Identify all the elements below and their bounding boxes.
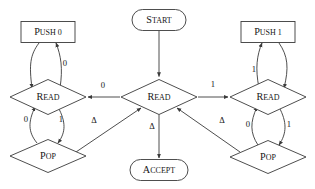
edge-pop-right-to-read-mid — [177, 108, 240, 152]
edge-label-read-left-to-push0: 0 — [63, 58, 67, 68]
edge-read-right-to-push1 — [257, 43, 262, 88]
edge-label-read-left-to-pop-left: 1 — [59, 114, 63, 124]
edge-read-left-to-push0 — [56, 43, 61, 88]
edge-label-read-mid-to-accept: Δ — [149, 121, 155, 131]
node-read-mid[interactable]: READ — [121, 80, 197, 115]
edge-pop-right-to-read-right — [252, 107, 258, 145]
edge-label-read-right-to-push1: 1 — [252, 64, 256, 74]
node-push1[interactable]: PUSH 1 — [241, 22, 295, 43]
node-push0-label: PUSH 0 — [34, 26, 62, 37]
edge-label-pop-left-to-read-mid: Δ — [91, 115, 97, 125]
edge-pop-left-to-read-left — [30, 107, 37, 143]
edge-pop-left-to-read-mid — [76, 108, 141, 152]
node-read-right[interactable]: READ — [230, 80, 306, 115]
edge-label-read-right-to-pop-right: 1 — [287, 119, 291, 129]
node-push1-label: PUSH 1 — [254, 26, 282, 37]
node-start[interactable]: START — [132, 10, 186, 31]
node-pop-left-label: POP — [40, 150, 56, 161]
edge-label-pop-right-to-read-mid: Δ — [219, 115, 225, 125]
edge-label-read-mid-to-read-left: 0 — [101, 80, 105, 90]
node-start-label: START — [146, 14, 172, 25]
state-diagram: 0 1 0 0 1 1 0 1 Δ Δ Δ — [0, 0, 315, 189]
edge-push1-to-read-right — [279, 43, 287, 88]
node-accept[interactable]: ACCEPT — [130, 160, 188, 181]
edge-label-read-mid-to-read-right: 1 — [211, 79, 215, 89]
node-read-mid-label: READ — [147, 91, 170, 102]
node-accept-label: ACCEPT — [143, 164, 175, 175]
edge-read-left-to-pop-left — [58, 107, 64, 143]
node-push0[interactable]: PUSH 0 — [21, 22, 75, 43]
edge-label-pop-left-to-read-left: 0 — [24, 114, 28, 124]
node-pop-right[interactable]: POP — [230, 141, 306, 174]
edge-label-pop-right-to-read-right: 0 — [246, 119, 250, 129]
diagram-canvas: 0 1 0 0 1 1 0 1 Δ Δ Δ — [0, 0, 315, 189]
node-pop-right-label: POP — [260, 151, 276, 162]
edge-read-right-to-pop-right — [279, 107, 285, 145]
node-read-left[interactable]: READ — [10, 80, 86, 115]
edge-push0-to-read-left — [30, 43, 39, 88]
node-read-left-label: READ — [36, 91, 59, 102]
node-pop-left[interactable]: POP — [10, 140, 86, 173]
node-read-right-label: READ — [256, 91, 279, 102]
